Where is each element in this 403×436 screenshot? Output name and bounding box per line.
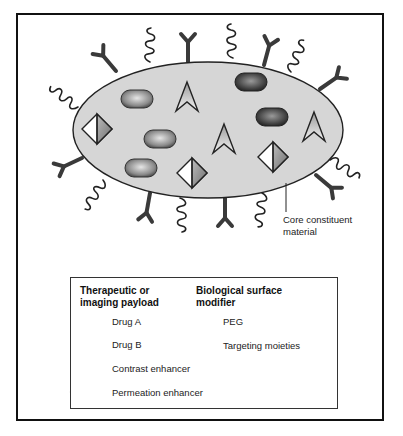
targeting-moiety-icon (181, 34, 195, 62)
drug-b-icon (256, 108, 288, 126)
legend-targeting-label: Targeting moieties (223, 340, 300, 352)
drug-a-icon (125, 159, 157, 177)
peg-icon (328, 155, 361, 182)
core-particle (73, 62, 343, 198)
legend-drug-a-label: Drug A (112, 316, 141, 328)
drug-a-icon (144, 130, 176, 148)
targeting-moiety-icon (257, 36, 278, 67)
peg-icon (144, 28, 156, 63)
legend-payload-heading-line-1: Therapeutic or (80, 285, 159, 297)
targeting-moiety-icon (54, 152, 85, 177)
core-label-line-2: material (283, 226, 352, 238)
legend-contrast-label: Contrast enhancer (112, 363, 190, 375)
legend-permeation-label: Permeation enhancer (112, 387, 203, 399)
targeting-moiety-icon (218, 198, 232, 226)
legend-payload-heading: Therapeutic or imaging payload (80, 285, 159, 309)
peg-icon (286, 39, 309, 74)
peg-icon (48, 83, 80, 112)
legend-modifier-heading-line-1: Biological surface (196, 285, 282, 297)
targeting-moiety-icon (316, 67, 347, 95)
drug-b-icon (235, 73, 267, 91)
peg-icon (253, 192, 268, 227)
legend-modifier-heading: Biological surface modifier (196, 285, 282, 309)
legend-payload-heading-line-2: imaging payload (80, 297, 159, 309)
drug-a-icon (121, 90, 153, 108)
legend-modifier-heading-line-2: modifier (196, 297, 282, 309)
targeting-moiety-icon (138, 192, 157, 222)
peg-icon (81, 178, 108, 211)
targeting-moiety-icon (93, 45, 122, 75)
legend-drug-b-label: Drug B (112, 339, 142, 351)
peg-icon (227, 24, 236, 58)
core-constituent-label: Core constituent material (283, 214, 352, 238)
legend-peg-label: PEG (223, 316, 243, 328)
core-label-line-1: Core constituent (283, 214, 352, 226)
peg-icon (177, 198, 186, 232)
targeting-moiety-icon (312, 170, 342, 199)
